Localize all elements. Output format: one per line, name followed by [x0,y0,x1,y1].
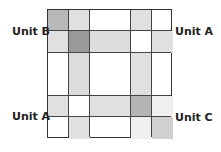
label-unit-b-top-left: Unit B [12,25,50,38]
grid-cell [152,96,173,117]
grid-cell [69,10,90,31]
grid-cell [48,96,69,117]
matrix-grid [47,9,172,138]
grid-cell [90,96,131,117]
grid-line [48,116,171,117]
grid-cell [131,96,152,117]
grid-cell [152,31,173,53]
grid-cell [69,53,90,96]
label-unit-a-bottom-left: Unit A [12,110,50,123]
grid-cell [131,117,152,139]
grid-cell [69,117,90,139]
grid-cell [69,31,90,53]
grid-cell [131,53,152,96]
grid-cell [152,117,173,139]
grid-line [48,52,171,53]
label-unit-a-top-right: Unit A [175,25,213,38]
grid-cell [48,31,69,53]
grid-line [48,30,171,31]
grid-cell [90,31,131,53]
grid-line [48,95,171,96]
grid-cell [131,10,152,31]
grid-cell [48,10,69,31]
label-unit-c-bottom-right: Unit C [175,111,213,124]
